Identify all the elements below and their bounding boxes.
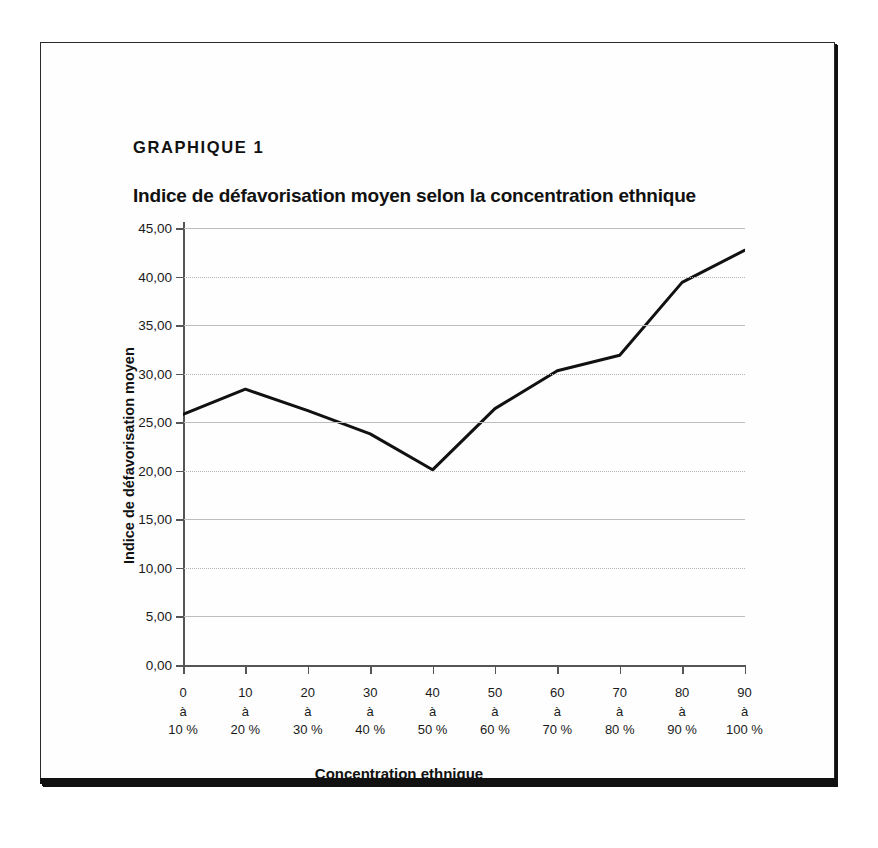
- figure-label: GRAPHIQUE 1: [133, 138, 264, 157]
- y-axis-tick: [176, 228, 184, 230]
- x-axis-line: [183, 665, 746, 667]
- gridline: [183, 471, 745, 472]
- x-axis-tick-label-line: 10 %: [147, 721, 219, 740]
- x-axis-title: Concentration ethnique: [0, 765, 838, 782]
- x-axis-tick-label-line: à: [646, 703, 718, 722]
- gridline: [183, 325, 745, 326]
- gridline: [183, 277, 745, 278]
- x-axis-tick-label-line: 40 %: [334, 721, 406, 740]
- gridline: [183, 616, 745, 617]
- x-axis-tick: [433, 665, 435, 674]
- x-axis-tick-label: 40à50 %: [397, 684, 469, 740]
- x-axis-tick-label-line: 80: [646, 684, 718, 703]
- x-axis-tick-label: 20à30 %: [272, 684, 344, 740]
- gridline: [183, 568, 745, 569]
- x-axis-tick-label-line: 20 %: [209, 721, 281, 740]
- y-axis-tick: [176, 422, 184, 424]
- x-axis-tick-label-line: 10: [209, 684, 281, 703]
- y-axis-tick-label: 5,00: [112, 609, 172, 624]
- x-axis-tick-label-line: 100 %: [709, 721, 781, 740]
- x-axis-tick-label-line: 60 %: [459, 721, 531, 740]
- x-axis-tick: [370, 665, 372, 674]
- x-axis-tick-label-line: à: [709, 703, 781, 722]
- x-axis-tick: [495, 665, 497, 674]
- y-axis-tick-label: 30,00: [112, 366, 172, 381]
- x-axis-tick-label-line: 30 %: [272, 721, 344, 740]
- x-axis-tick-label-line: 20: [272, 684, 344, 703]
- y-axis-tick-label: 15,00: [112, 512, 172, 527]
- x-axis-tick-label-line: 90: [709, 684, 781, 703]
- y-axis-tick-label: 0,00: [112, 658, 172, 673]
- x-axis-tick-label-line: 80 %: [584, 721, 656, 740]
- x-axis-tick-label-line: 70: [584, 684, 656, 703]
- gridline: [183, 422, 745, 423]
- chart-title: Indice de défavorisation moyen selon la …: [133, 185, 696, 207]
- gridline: [183, 519, 745, 520]
- x-axis-tick-label-line: à: [459, 703, 531, 722]
- x-axis-tick-label: 80à90 %: [646, 684, 718, 740]
- x-axis-tick-label: 10à20 %: [209, 684, 281, 740]
- gridline: [183, 228, 745, 229]
- y-axis-tick: [176, 471, 184, 473]
- y-axis-tick-label: 35,00: [112, 318, 172, 333]
- x-axis-tick-label: 90à100 %: [709, 684, 781, 740]
- gridline: [183, 374, 745, 375]
- x-axis-tick-label: 60à70 %: [521, 684, 593, 740]
- x-axis-tick-label: 0à10 %: [147, 684, 219, 740]
- y-axis-tick-label: 25,00: [112, 415, 172, 430]
- x-axis-tick-label-line: à: [584, 703, 656, 722]
- x-axis-tick: [183, 665, 185, 674]
- plot-area: Indice de défavorisation moyen: [183, 228, 745, 665]
- x-axis-tick-label-line: 50 %: [397, 721, 469, 740]
- x-axis-tick-label-line: 50: [459, 684, 531, 703]
- x-axis-tick: [308, 665, 310, 674]
- x-axis-tick-label-line: 70 %: [521, 721, 593, 740]
- y-axis-tick: [176, 568, 184, 570]
- x-axis-tick-label: 70à80 %: [584, 684, 656, 740]
- x-axis-tick: [745, 665, 747, 674]
- y-axis-tick: [176, 277, 184, 279]
- y-axis-tick: [176, 616, 184, 618]
- data-series-line: [183, 228, 745, 665]
- x-axis-tick-label-line: 60: [521, 684, 593, 703]
- x-axis-tick-label-line: 40: [397, 684, 469, 703]
- y-axis-tick-label: 40,00: [112, 269, 172, 284]
- x-axis-tick-label-line: à: [272, 703, 344, 722]
- x-axis-tick: [557, 665, 559, 674]
- x-axis-tick: [682, 665, 684, 674]
- x-axis-tick-label-line: 0: [147, 684, 219, 703]
- x-axis-tick: [620, 665, 622, 674]
- y-axis-tick: [176, 374, 184, 376]
- y-axis-tick: [176, 519, 184, 521]
- x-axis-tick-label-line: 30: [334, 684, 406, 703]
- x-axis-tick-label: 50à60 %: [459, 684, 531, 740]
- x-axis-tick-label-line: à: [334, 703, 406, 722]
- x-axis-tick-label-line: à: [147, 703, 219, 722]
- y-axis-tick-label: 20,00: [112, 463, 172, 478]
- x-axis-tick-label-line: à: [397, 703, 469, 722]
- y-axis-tick: [176, 325, 184, 327]
- x-axis-tick-label-line: à: [209, 703, 281, 722]
- x-axis-tick-label-line: 90 %: [646, 721, 718, 740]
- x-axis-tick: [245, 665, 247, 674]
- y-axis-tick-label: 45,00: [112, 221, 172, 236]
- x-axis-tick-label: 30à40 %: [334, 684, 406, 740]
- x-axis-tick-label-line: à: [521, 703, 593, 722]
- y-axis-tick-label: 10,00: [112, 560, 172, 575]
